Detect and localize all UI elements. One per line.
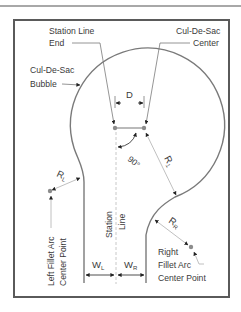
right-fillet-leader (194, 252, 204, 264)
bubble-leader (62, 84, 80, 85)
station-line-end-point (113, 126, 117, 130)
right-fillet-label-3: Center Point (158, 273, 206, 283)
r1-label: R1 (161, 154, 177, 169)
right-fillet-label-1: Right (158, 247, 179, 257)
wl-label: WL (92, 259, 105, 271)
wr-label: WR (124, 259, 138, 271)
station-line-label-1: Station (104, 211, 114, 238)
rr-label: RR (166, 215, 183, 232)
bubble-label-2: Bubble (30, 79, 57, 89)
left-fillet-center-point (48, 189, 52, 193)
d-label: D (126, 89, 133, 100)
left-fillet-label-1: Left Fillet Arc (46, 236, 56, 286)
station-line-end-label-2: End (49, 38, 65, 48)
cul-de-sac-center-label-2: Center (193, 38, 219, 48)
bubble-label-1: Cul-De-Sac (30, 65, 75, 75)
station-line-end-leader (72, 43, 114, 124)
right-angle-arc (118, 133, 136, 147)
rl-label: RL (55, 168, 70, 183)
right-fillet-center-point (189, 245, 193, 249)
left-fillet-label-2: Center Point (58, 238, 68, 286)
left-fillet-radius-line (52, 178, 80, 190)
station-line-end-label-1: Station Line (49, 26, 95, 36)
right-fillet-label-2: Fillet Arc (158, 260, 192, 270)
road-outline (71, 48, 225, 283)
cul-de-sac-center-leader (146, 43, 190, 124)
cul-de-sac-center-point (142, 126, 146, 130)
cul-de-sac-diagram: D Station Line End Cul-De-Sac Center Cul… (0, 0, 241, 312)
angle-label: 90° (126, 154, 142, 170)
cul-de-sac-center-label-1: Cul-De-Sac (176, 26, 221, 36)
station-line-label-2: Line (117, 214, 127, 230)
